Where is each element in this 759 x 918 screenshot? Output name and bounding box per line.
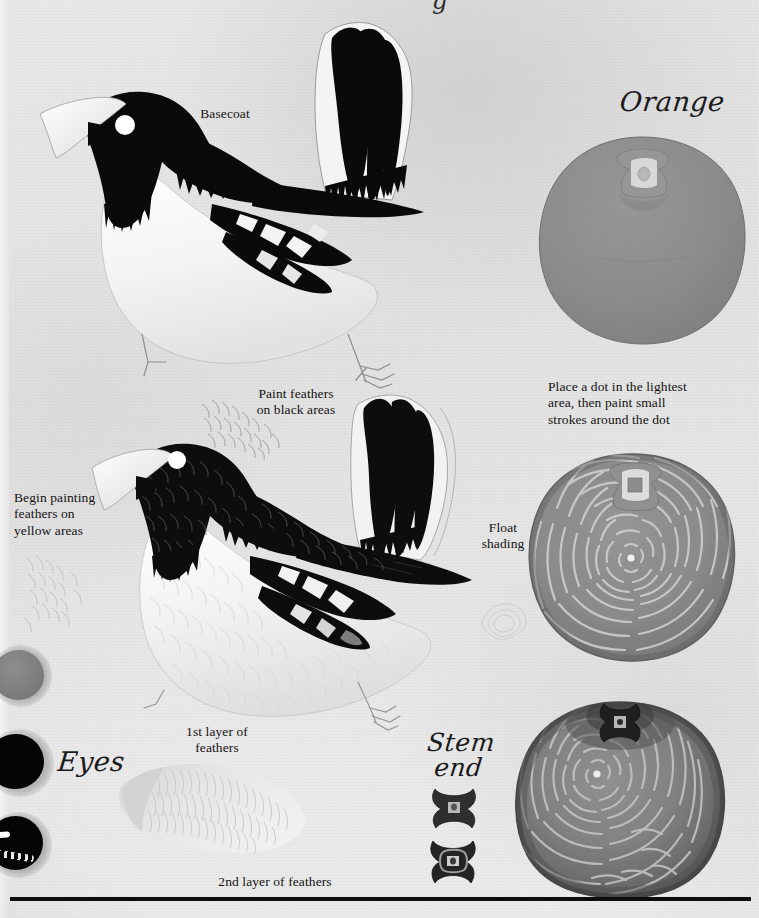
feathered-bird-eye [168, 451, 186, 469]
first-layer-feather-swatch [112, 752, 342, 864]
orange-float-shaded-center-dot [593, 770, 600, 777]
orange-float-shaded [512, 700, 730, 900]
label-orange-title: Orange [619, 88, 727, 115]
basecoat-bird-raised-wing [315, 22, 412, 212]
clipped-title-glyph: g [432, 0, 447, 15]
label-stem-end: Stem end [423, 730, 496, 780]
orange-float-shaded-stem-end [600, 704, 640, 742]
orange-strokes-center-dot [627, 554, 634, 561]
basecoat-bird-eye [115, 115, 135, 135]
black-area-feather-swatch [196, 394, 306, 464]
label-basecoat: Basecoat [165, 106, 285, 122]
eye-highlight-dot [0, 831, 10, 839]
stem-end-detailed [428, 838, 478, 884]
orange-strokes [525, 450, 740, 665]
eye-highlight-dashes [0, 849, 34, 863]
yellow-area-feather-swatch [20, 548, 110, 638]
orange-basecoat [535, 133, 750, 348]
basecoat-bird [26, 18, 446, 388]
label-second-layer: 2nd layer of feathers [160, 874, 390, 890]
label-begin-painting-yellow: Begin painting feathers on yellow areas [14, 490, 134, 539]
bottom-divider-rule [10, 897, 751, 901]
label-place-a-dot: Place a dot in the lightest area, then p… [548, 379, 748, 428]
stem-end-basecoat [430, 786, 478, 830]
worksheet-plate: g [0, 0, 759, 918]
feathered-bird-raised-wing [351, 395, 456, 563]
